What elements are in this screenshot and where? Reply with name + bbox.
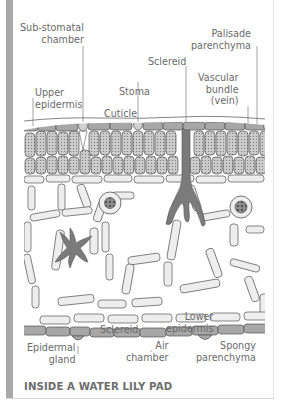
label-vascular-bundle: Vascular bundle (vein) [198, 72, 239, 107]
label-air-chamber: Air chamber [126, 340, 169, 363]
label-lower-epidermis: Lower epidermis [166, 311, 213, 334]
label-palisade-parenchyma: Palisade parenchyma [191, 28, 251, 51]
label-sclereid-bottom: Sclereid [100, 324, 138, 336]
label-sclereid-top: Sclereid [148, 56, 186, 68]
upper-epidermis [22, 122, 267, 131]
label-epidermal-gland: Epidermal gland [27, 342, 75, 365]
label-spongy-parenchyma: Spongy parenchyma [196, 340, 256, 363]
vascular-bundle-left [99, 192, 121, 214]
cuticle [24, 116, 265, 121]
vascular-bundle-right [230, 196, 252, 218]
label-stoma: Stoma [119, 86, 150, 98]
tissue [20, 118, 273, 358]
figure-title: INSIDE A WATER LILY PAD [24, 381, 172, 392]
label-upper-epidermis: Upper epidermis [35, 87, 82, 110]
palisade-parenchyma [25, 131, 270, 174]
label-sub-stomatal-chamber: Sub-stomatal chamber [20, 22, 84, 45]
label-cuticle: Cuticle [104, 108, 137, 120]
